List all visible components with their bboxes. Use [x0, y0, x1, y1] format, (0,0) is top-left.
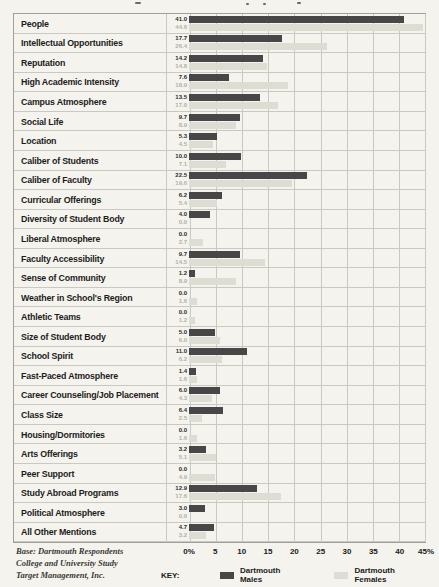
category-label: Sense of Community	[21, 272, 106, 283]
female-bar	[189, 161, 226, 168]
value-cell: 4.73.2	[166, 523, 189, 542]
bar-cell	[189, 14, 425, 33]
legend: KEY: Dartmouth Males Dartmouth Females	[161, 566, 426, 584]
category-label: Curricular Offerings	[21, 194, 101, 205]
category-label-cell: Peer Support	[14, 464, 166, 483]
category-label: Size of Student Body	[21, 331, 106, 342]
source-note: Base: Dartmouth Respondents College and …	[16, 545, 123, 581]
female-bar	[189, 122, 236, 129]
male-value: 11.0	[176, 348, 187, 355]
category-label-cell: Diversity of Student Body	[14, 210, 166, 229]
category-label: Class Size	[21, 409, 63, 420]
bar-cell	[189, 73, 425, 92]
male-value: 10.0	[175, 153, 187, 160]
male-bar	[189, 55, 263, 62]
category-label: Career Counseling/Job Placement	[21, 389, 159, 400]
chart-row: Political Atmosphere3.00.0	[14, 503, 425, 523]
category-label-cell: Faculty Accessibility	[14, 249, 166, 268]
female-bar	[189, 337, 220, 344]
chart-row: Study Abroad Programs12.917.6	[14, 484, 425, 504]
chart-row: Sense of Community1.28.9	[14, 268, 425, 288]
category-label: Political Atmosphere	[21, 507, 105, 518]
axis-tick: 25	[316, 547, 325, 556]
male-value: 0.0	[179, 427, 187, 434]
female-bar	[189, 415, 202, 422]
category-label-cell: Social Life	[14, 112, 166, 131]
female-bar	[189, 24, 423, 31]
bar-cell	[189, 307, 425, 326]
category-label-cell: Sense of Community	[14, 268, 166, 287]
female-value: 14.8	[175, 63, 187, 70]
axis-tick: 5	[213, 547, 217, 556]
category-label: People	[21, 18, 49, 29]
value-cell: 14.214.8	[166, 53, 189, 72]
source-note-line: College and University Study	[16, 557, 123, 569]
male-bar	[189, 211, 210, 218]
male-value: 6.2	[179, 192, 187, 199]
male-value: 14.2	[175, 55, 187, 62]
male-bar	[189, 348, 247, 355]
male-value: 41.0	[175, 16, 187, 23]
bar-cell	[189, 327, 425, 346]
chart-row: Liberal Atmosphere0.02.7	[14, 229, 425, 249]
chart-row: Intellectual Opportunities17.726.4	[14, 34, 425, 54]
axis-tick: 15	[264, 547, 273, 556]
legend-key-label: KEY:	[161, 571, 180, 580]
male-bar	[189, 74, 229, 81]
chart-footer: Base: Dartmouth Respondents College and …	[13, 543, 426, 587]
male-value: 7.6	[179, 74, 187, 81]
bar-cell	[189, 386, 425, 405]
category-label-cell: Athletic Teams	[14, 307, 166, 326]
category-label: Peer Support	[21, 468, 74, 479]
female-value: 1.2	[179, 317, 187, 324]
chart-row: Campus Atmosphere13.517.0	[14, 92, 425, 112]
male-value: 3.0	[179, 505, 187, 512]
bar-chart: People41.044.6Intellectual Opportunities…	[13, 13, 426, 543]
category-label-cell: Caliber of Students	[14, 151, 166, 170]
bar-cell	[189, 151, 425, 170]
category-label: Athletic Teams	[21, 311, 81, 322]
axis-tick: 20	[290, 547, 299, 556]
category-label: Arts Offerings	[21, 448, 78, 459]
value-cell: 6.25.4	[166, 190, 189, 209]
value-cell: 10.07.1	[166, 151, 189, 170]
value-cell: 3.00.0	[166, 503, 189, 522]
value-cell: 41.044.6	[166, 14, 189, 33]
male-bar	[189, 270, 195, 277]
bar-cell	[189, 190, 425, 209]
chart-row: Housing/Dormitories0.01.6	[14, 425, 425, 445]
female-value: 0.0	[179, 513, 187, 520]
female-value: 4.9	[179, 474, 187, 481]
cropped-title-fragment	[297, 2, 301, 4]
value-cell: 6.04.3	[166, 386, 189, 405]
male-value: 1.2	[179, 270, 187, 277]
male-bar	[189, 133, 217, 140]
category-label-cell: Location	[14, 131, 166, 150]
male-value: 13.5	[175, 94, 187, 101]
male-bar	[189, 485, 257, 492]
female-bar	[189, 200, 217, 207]
category-label-cell: School Spirit	[14, 347, 166, 366]
female-value: 5.4	[179, 200, 187, 207]
female-bar	[189, 278, 236, 285]
chart-row: Fast-Paced Atmosphere1.41.6	[14, 366, 425, 386]
female-bar	[189, 239, 203, 246]
category-label: Fast-Paced Atmosphere	[21, 370, 118, 381]
female-value: 2.7	[179, 239, 187, 246]
female-bar	[189, 356, 222, 363]
chart-row: Curricular Offerings6.25.4	[14, 190, 425, 210]
chart-row: High Academic Intensity7.618.9	[14, 73, 425, 93]
value-cell: 13.517.0	[166, 92, 189, 111]
value-cell: 5.06.0	[166, 327, 189, 346]
female-value: 14.5	[175, 259, 187, 266]
bar-cell	[189, 53, 425, 72]
cropped-title-fragment	[263, 3, 266, 5]
female-bar	[189, 102, 278, 109]
category-label-cell: Political Atmosphere	[14, 503, 166, 522]
category-label: High Academic Intensity	[21, 76, 119, 87]
bar-cell	[189, 268, 425, 287]
male-swatch-icon	[220, 572, 234, 579]
category-label-cell: All Other Mentions	[14, 523, 166, 542]
chart-row: Caliber of Students10.07.1	[14, 151, 425, 171]
male-bar	[189, 505, 205, 512]
